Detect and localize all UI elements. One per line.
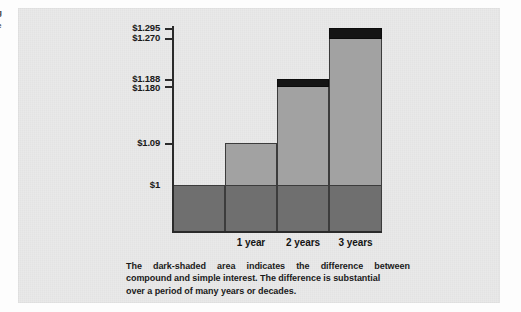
x-axis-label-2-years: 2 years [277,237,329,248]
simple-interest-segment [277,86,329,186]
simple-interest-segment [225,143,277,186]
bar-column-principal-left [172,8,225,233]
margin-fragment-line: e [0,19,9,32]
margin-fragment-line: t [0,32,9,45]
chart-caption: The dark-shaded area indicates the diffe… [126,260,410,297]
y-axis-tick [165,38,172,40]
bar-column-3-years [329,8,382,233]
principal-segment [277,185,329,233]
caption-word: indicates [246,260,285,272]
y-axis-tick [165,79,172,81]
caption-word: dark-shaded [153,260,206,272]
principal-segment [329,185,382,233]
compound-interest-difference-segment [329,28,382,39]
bar-column-1-year [225,8,277,233]
bar-column-2-years [277,8,329,233]
principal-segment [172,185,225,233]
caption-word: between [374,260,410,272]
x-axis-label-1-year: 1 year [225,237,277,248]
chart-panel: $1.295 $1.270 $1.188 $1.180 $1.09 $1 1 y… [18,8,500,303]
caption-line-1: The dark-shaded area indicates the diffe… [126,260,410,272]
caption-line-2: compound and simple interest. The differ… [126,272,410,284]
y-axis-tick [165,143,172,145]
figure-root: g e t [0,0,521,312]
y-axis-label-1: $1 [150,180,160,190]
margin-fragment-line: g [0,6,9,19]
y-axis-label-109: $1.09 [137,138,160,148]
compound-interest-difference-segment [277,79,329,87]
y-axis-label-1270: $1.270 [132,33,160,43]
caption-word: the [296,260,309,272]
x-axis-label-3-years: 3 years [329,237,382,248]
y-axis-line [172,26,174,233]
y-axis-tick [165,86,172,88]
caption-word: The [126,260,142,272]
x-axis-line [172,231,382,233]
caption-word: difference [321,260,364,272]
caption-line-3: over a period of many years or decades. [126,285,410,297]
y-axis-tick [165,28,172,30]
simple-interest-segment [329,38,382,186]
principal-segment [225,185,277,233]
caption-word: area [217,260,235,272]
margin-text-fragments: g e t [0,6,9,54]
y-axis-label-1180: $1.180 [132,83,160,93]
bar-chart-plot: $1.295 $1.270 $1.188 $1.180 $1.09 $1 1 y… [18,8,500,303]
